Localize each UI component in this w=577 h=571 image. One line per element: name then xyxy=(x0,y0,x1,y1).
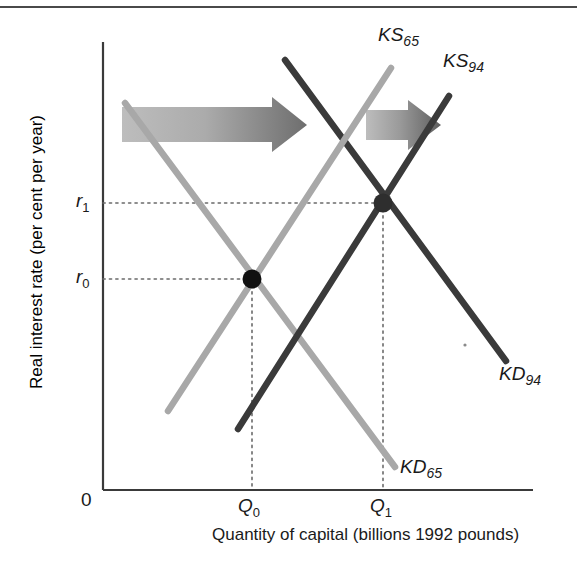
demand-shift-arrow xyxy=(122,97,307,152)
y-tick-label-r0: r0 xyxy=(76,266,90,291)
curve-label-kd94-sub: 94 xyxy=(525,372,541,388)
guide-lines xyxy=(103,203,383,490)
y-tick-label-r1: r1 xyxy=(76,190,90,215)
y-tick-sub-r0: 0 xyxy=(82,276,89,291)
curve-label-kd94: KD94 xyxy=(499,363,541,388)
y-tick-sub-r1: 1 xyxy=(82,200,89,215)
x-tick-label-q1: Q1 xyxy=(370,495,392,520)
x-axis-title: Quantity of capital (billions 1992 pound… xyxy=(212,525,519,545)
equilibrium-point-e0 xyxy=(243,270,262,289)
curve-label-ks65-sub: 65 xyxy=(403,33,419,49)
curve-label-kd65-sub: 65 xyxy=(426,465,442,481)
curve-label-ks94: KS94 xyxy=(443,50,484,75)
x-tick-base-q1: Q xyxy=(370,495,385,516)
curve-label-ks94-base: KS xyxy=(443,50,468,71)
x-tick-sub-q1: 1 xyxy=(385,505,392,520)
y-axis-title-wrapper: Real interest rate (per cent per year) xyxy=(27,27,47,477)
curve-label-kd65: KD65 xyxy=(400,456,442,481)
curve-kd94 xyxy=(285,60,506,361)
scan-speck xyxy=(463,343,466,346)
curve-label-kd94-base: KD xyxy=(499,363,525,384)
curve-label-ks65-base: KS xyxy=(378,24,403,45)
capital-market-figure: Real interest rate (per cent per year) Q… xyxy=(0,0,577,571)
curve-label-ks65: KS65 xyxy=(378,24,419,49)
x-tick-base-q0: Q xyxy=(238,495,253,516)
x-tick-label-q0: Q0 xyxy=(238,495,260,520)
origin-label: 0 xyxy=(81,489,92,511)
curve-label-kd65-base: KD xyxy=(400,456,426,477)
x-tick-sub-q0: 0 xyxy=(253,505,260,520)
curve-label-ks94-sub: 94 xyxy=(468,59,484,75)
equilibrium-point-e1 xyxy=(374,194,393,213)
y-axis-title: Real interest rate (per cent per year) xyxy=(27,115,46,389)
